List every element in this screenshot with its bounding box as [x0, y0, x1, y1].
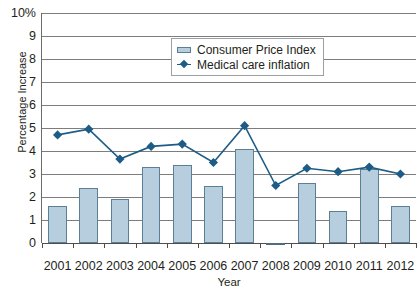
- x-axis-title: Year: [42, 276, 416, 288]
- legend-label-medical-care-inflation: Medical care inflation: [197, 58, 310, 72]
- y-tick-label-10: 10%: [0, 6, 36, 20]
- bar-2008: [266, 243, 285, 245]
- y-tick-label-6: 6: [0, 98, 36, 112]
- y-tick-label-4: 4: [0, 144, 36, 158]
- x-tick-label-2007: 2007: [231, 259, 259, 273]
- marker-2012: [396, 169, 405, 178]
- x-tick-2009: [291, 243, 292, 248]
- y-tick-label-2: 2: [0, 190, 36, 204]
- y-tick-label-3: 3: [0, 167, 36, 181]
- line-markers: [53, 121, 405, 190]
- legend-item-medical-care-inflation: Medical care inflation: [177, 57, 316, 72]
- x-tick-end: [416, 243, 417, 248]
- line-marker-swatch-icon: [177, 60, 191, 69]
- y-tick-label-0: 0: [0, 236, 36, 250]
- y-tick-label-7: 7: [0, 75, 36, 89]
- x-tick-label-2001: 2001: [44, 259, 72, 273]
- x-tick-2010: [323, 243, 324, 248]
- x-tick-label-2010: 2010: [324, 259, 352, 273]
- marker-2010: [333, 167, 342, 176]
- x-tick-2006: [198, 243, 199, 248]
- x-tick-2005: [167, 243, 168, 248]
- legend-label-consumer-price-index: Consumer Price Index: [197, 43, 316, 57]
- x-tick-2001: [42, 243, 43, 248]
- x-tick-label-2004: 2004: [137, 259, 165, 273]
- x-tick-label-2009: 2009: [293, 259, 321, 273]
- line-path: [58, 126, 401, 186]
- x-tick-2008: [260, 243, 261, 248]
- y-tick-label-5: 5: [0, 121, 36, 135]
- y-tick-label-9: 9: [0, 29, 36, 43]
- y-tick-label-8: 8: [0, 52, 36, 66]
- x-tick-label-2011: 2011: [356, 259, 383, 273]
- marker-2001: [53, 130, 62, 139]
- x-tick-2002: [73, 243, 74, 248]
- legend-item-consumer-price-index: Consumer Price Index: [177, 42, 316, 57]
- x-tick-2003: [104, 243, 105, 248]
- marker-2004: [146, 142, 155, 151]
- marker-2008: [271, 181, 280, 190]
- x-tick-label-2002: 2002: [75, 259, 103, 273]
- x-tick-label-2012: 2012: [387, 259, 415, 273]
- marker-2005: [178, 140, 187, 149]
- x-tick-2012: [385, 243, 386, 248]
- y-axis-tick-labels: 012345678910%: [0, 0, 36, 280]
- y-tick-label-1: 1: [0, 213, 36, 227]
- x-tick-2007: [229, 243, 230, 248]
- x-tick-label-2005: 2005: [168, 259, 196, 273]
- x-tick-label-2003: 2003: [106, 259, 134, 273]
- marker-2009: [302, 164, 311, 173]
- x-tick-2011: [354, 243, 355, 248]
- x-tick-label-2008: 2008: [262, 259, 290, 273]
- bar-swatch-icon: [177, 47, 191, 53]
- chart-legend: Consumer Price Index Medical care inflat…: [171, 38, 324, 76]
- x-tick-label-2006: 2006: [200, 259, 228, 273]
- x-tick-2004: [136, 243, 137, 248]
- marker-2011: [365, 163, 374, 172]
